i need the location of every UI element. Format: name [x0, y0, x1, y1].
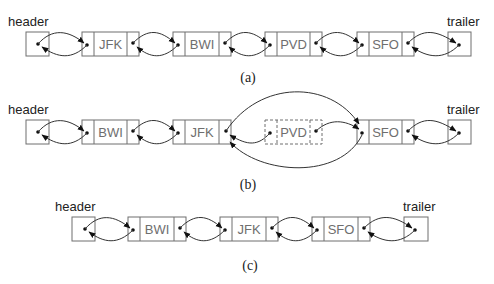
node-label: JFK	[190, 125, 213, 140]
node-label: BWI	[190, 37, 215, 52]
row-b: header trailer BWI JFK	[8, 92, 480, 193]
header-label: header	[55, 199, 96, 214]
header-sentinel	[26, 32, 49, 56]
node-label: JFK	[99, 37, 122, 52]
node-label: SFO	[372, 37, 399, 52]
trailer-label: trailer	[403, 199, 436, 214]
node-label: JFK	[237, 222, 260, 237]
caption-a: (a)	[240, 70, 256, 86]
node-bwi: BWI	[173, 32, 231, 56]
node-label: PVD	[280, 125, 307, 140]
node-bwi: BWI	[128, 217, 186, 241]
node-sfo: SFO	[357, 32, 414, 56]
header-sentinel	[72, 217, 95, 241]
node-label: PVD	[280, 37, 307, 52]
node-pvd-removed: PVD	[265, 120, 322, 144]
caption-c: (c)	[242, 258, 258, 274]
node-label: BWI	[98, 125, 123, 140]
trailer-label: trailer	[447, 102, 480, 117]
node-sfo: SFO	[312, 217, 370, 241]
doubly-linked-list-diagram: header trailer JFK BWI	[0, 0, 494, 284]
row-c: header trailer BWI JFK	[55, 199, 436, 274]
node-bwi: BWI	[82, 120, 139, 144]
header-label: header	[8, 14, 49, 29]
trailer-sentinel	[404, 217, 428, 241]
row-a: header trailer JFK BWI	[8, 14, 480, 86]
trailer-sentinel	[448, 32, 471, 56]
node-label: SFO	[328, 222, 355, 237]
trailer-sentinel	[448, 120, 471, 144]
node-label: BWI	[145, 222, 170, 237]
header-sentinel	[26, 120, 49, 144]
node-jfk: JFK	[82, 32, 139, 56]
node-jfk: JFK	[173, 120, 231, 144]
node-label: SFO	[372, 125, 399, 140]
caption-b: (b)	[240, 177, 257, 193]
node-jfk: JFK	[220, 217, 278, 241]
node-pvd: PVD	[265, 32, 322, 56]
trailer-label: trailer	[447, 14, 480, 29]
header-label: header	[8, 102, 49, 117]
node-sfo: SFO	[357, 120, 414, 144]
